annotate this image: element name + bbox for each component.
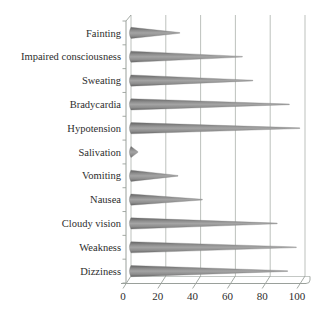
category-label: Bradycardia — [70, 99, 122, 110]
x-tick-label: 20 — [152, 290, 164, 302]
chart-canvas: 020406080100FaintingImpaired consciousne… — [0, 0, 323, 319]
cone-bar — [129, 99, 289, 110]
category-label: Vomiting — [82, 170, 122, 181]
cone-bar — [129, 242, 296, 253]
x-tick — [158, 276, 166, 289]
x-tick — [297, 276, 305, 289]
x-tick — [227, 276, 235, 289]
x-tick — [123, 276, 131, 289]
x-tick-label: 80 — [257, 290, 269, 302]
x-tick-label: 40 — [187, 290, 199, 302]
x-tick — [262, 276, 270, 289]
y-axis-top-edge — [126, 15, 131, 21]
category-label: Sweating — [82, 75, 122, 86]
cone-bar — [129, 146, 138, 157]
cone-bar-chart-figure: 020406080100FaintingImpaired consciousne… — [0, 0, 323, 319]
category-label: Hypotension — [67, 123, 121, 134]
cone-bar — [129, 123, 299, 134]
x-tick-label: 100 — [289, 290, 306, 302]
category-label: Fainting — [86, 28, 122, 39]
cone-bar — [129, 51, 242, 62]
category-label: Weakness — [79, 242, 121, 253]
category-label: Cloudy vision — [62, 218, 122, 229]
cone-bar — [129, 27, 179, 38]
floor-right-edge — [306, 277, 310, 284]
category-label: Nausea — [90, 194, 121, 205]
category-label: Impaired consciousness — [21, 51, 121, 62]
cone-bar — [129, 265, 287, 276]
cone-bar — [129, 75, 252, 86]
x-tick — [193, 276, 201, 289]
x-tick-label: 60 — [222, 290, 234, 302]
x-tick-label: 0 — [120, 290, 126, 302]
cone-bar — [129, 170, 178, 181]
cone-bar — [129, 218, 277, 229]
category-label: Salivation — [78, 147, 121, 158]
category-label: Dizziness — [80, 266, 121, 277]
